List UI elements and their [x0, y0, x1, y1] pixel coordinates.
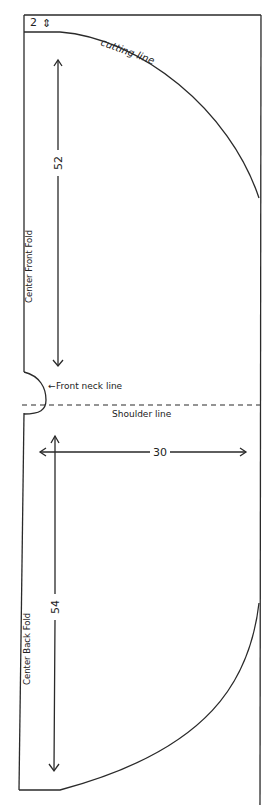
- top-margin-icon: ⇕: [42, 17, 51, 30]
- front-neck-arrow: ←: [48, 381, 56, 391]
- front-neck-line-label: Front neck line: [56, 381, 123, 391]
- pattern-right-edge: [260, 15, 261, 805]
- shoulder-line-label: Shoulder line: [112, 409, 172, 419]
- top-margin-label: 2: [30, 16, 37, 29]
- front-length-label: 52: [52, 156, 65, 170]
- cutting-line-curve: [60, 32, 259, 198]
- center-back-fold-label: Center Back Fold: [22, 613, 32, 685]
- front-neck-curve: [24, 372, 46, 414]
- width-label: 30: [153, 446, 167, 459]
- back-length-label: 54: [49, 600, 62, 614]
- cutting-line-label: cutting line: [99, 37, 156, 67]
- pattern-diagram: 2 ⇕ cutting line 52 Center Front Fold ← …: [0, 0, 272, 807]
- center-back-fold-line: [19, 413, 24, 790]
- center-front-fold-label: Center Front Fold: [24, 230, 34, 303]
